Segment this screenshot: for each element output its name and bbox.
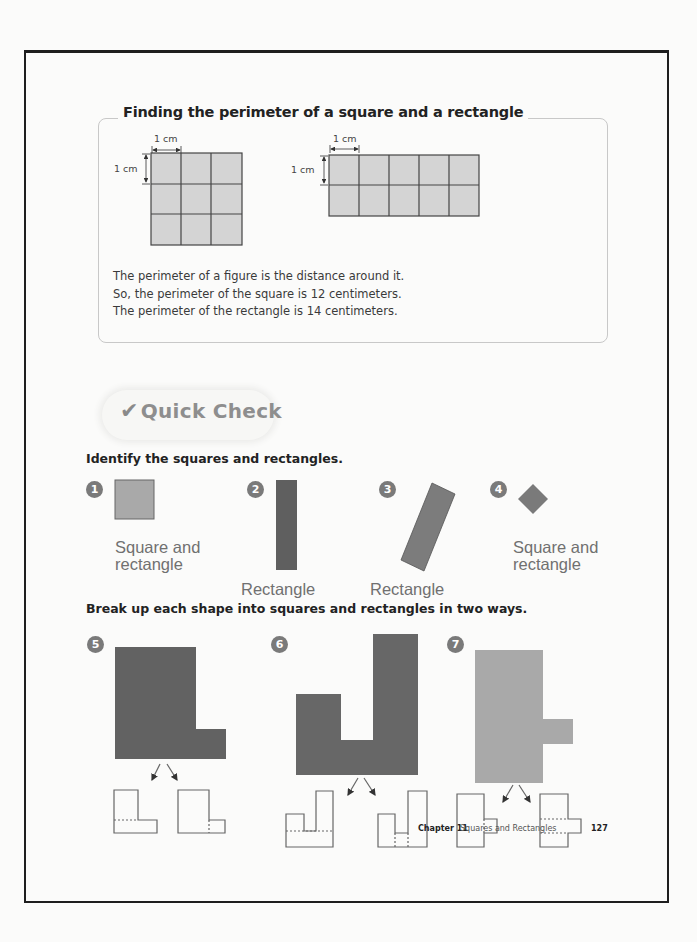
shape-3-tilted-rectangle [401, 483, 455, 571]
square-width-label: 1 cm [154, 133, 178, 144]
description-line-2: So, the perimeter of the square is 12 ce… [113, 287, 402, 301]
item-badge-4: 4 [490, 481, 507, 498]
identify-instruction: Identify the squares and rectangles. [86, 451, 343, 466]
shape-6-split-a [286, 791, 333, 847]
checkmark-icon: ✔ [120, 398, 139, 423]
shape-1-square [115, 480, 154, 519]
description-line-3: The perimeter of the rectangle is 14 cen… [113, 304, 398, 318]
answer-1: Square and rectangle [115, 539, 200, 573]
item-badge-7: 7 [447, 636, 464, 653]
page-number: 127 [591, 824, 608, 833]
item-badge-2: 2 [247, 481, 264, 498]
shape-6-split-b [378, 791, 427, 847]
break-up-instruction: Break up each shape into squares and rec… [86, 601, 527, 616]
shape-5-split-b [178, 790, 225, 833]
square-height-label: 1 cm [114, 163, 138, 174]
shape-7-tab-shape [475, 650, 573, 783]
shape-4-diamond [518, 484, 548, 514]
item-badge-6: 6 [271, 636, 288, 653]
rectangle-width-label: 1 cm [333, 133, 357, 144]
shape-7-split-a [457, 794, 497, 847]
quick-check-label: Quick Check [141, 399, 282, 423]
description-line-1: The perimeter of a figure is the distanc… [113, 269, 404, 283]
item-badge-5: 5 [87, 636, 104, 653]
item-badge-3: 3 [379, 481, 396, 498]
answer-4: Square and rectangle [513, 539, 598, 573]
quick-check-heading: ✔Quick Check [120, 398, 282, 423]
shape-5-split-a [114, 790, 157, 833]
answer-3: Rectangle [370, 581, 444, 598]
shape-6-j-shape [296, 634, 418, 775]
shape-7-split-b [540, 794, 581, 847]
item-badge-1: 1 [86, 481, 103, 498]
answer-2: Rectangle [241, 581, 315, 598]
footer-chapter-title: Squares and Rectangles [460, 824, 557, 833]
square-grid [142, 146, 242, 245]
shape-2-rectangle [276, 480, 297, 570]
rectangle-height-label: 1 cm [291, 164, 315, 175]
rectangle-grid [320, 145, 479, 216]
shape-5-l-shape [115, 647, 226, 759]
